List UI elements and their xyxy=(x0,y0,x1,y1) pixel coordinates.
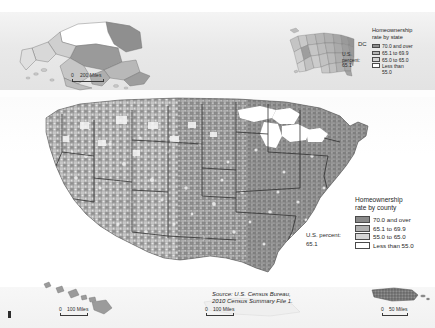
county-legend-row: 65.1 to 69.9 xyxy=(355,225,435,232)
county-us-percent-value: 65.1 xyxy=(306,241,318,248)
county-legend: Homeownership rate by county 70.0 and ov… xyxy=(355,196,435,250)
state-legend-row: 70.0 and over xyxy=(372,43,434,49)
state-legend-label: 65.0 to 65.0 xyxy=(382,57,408,63)
state-legend-label: 65.1 to 69.9 xyxy=(382,50,408,56)
state-legend-swatch xyxy=(372,57,380,61)
scale-bar-puerto-rico: 0 100 Miles xyxy=(206,313,234,316)
scale-label-zero-island: 0 xyxy=(381,306,384,312)
state-legend-row: Less than 55.0 xyxy=(372,63,434,75)
county-legend-row: 55.0 to 65.0 xyxy=(355,233,435,240)
county-legend-swatch xyxy=(355,216,370,223)
scale-bar-alaska: 0 200 Miles xyxy=(72,79,104,82)
island-area-inset-map xyxy=(370,286,432,308)
county-us-percent-label: U.S. percent: xyxy=(306,232,341,239)
county-legend-label: 70.0 and over xyxy=(373,216,411,223)
county-legend-label: 55.0 to 65.0 xyxy=(373,233,406,240)
scale-label-value-hawaii: 100 Miles xyxy=(67,306,88,312)
state-legend-swatch xyxy=(372,63,380,67)
scale-label-value-alaska: 200 Miles xyxy=(80,72,101,78)
scale-label-value-island: 50 Miles xyxy=(389,306,408,312)
county-legend-title: Homeownership rate by county xyxy=(355,196,435,212)
county-legend-row: Less than 55.0 xyxy=(355,242,435,249)
county-legend-label: 65.1 to 69.9 xyxy=(373,225,406,232)
page-marker xyxy=(8,311,11,318)
source-note: Source: U.S. Census Bureau, 2010 Census … xyxy=(212,291,293,304)
scale-label-zero-puerto-rico: 0 xyxy=(205,306,208,312)
state-legend-title: Homeownership rate by state xyxy=(372,27,434,41)
scale-bar-hawaii: 0 100 Miles xyxy=(60,313,88,316)
state-legend-row: 65.1 to 69.9 xyxy=(372,50,434,56)
state-legend-label: Less than 55.0 xyxy=(382,63,404,75)
scale-label-value-puerto-rico: 100 Miles xyxy=(213,306,234,312)
scale-label-zero-alaska: 0 xyxy=(71,72,74,78)
census-map-figure: 0 200 Miles xyxy=(0,0,435,328)
state-legend-label: 70.0 and over xyxy=(382,43,413,49)
state-legend-swatch xyxy=(372,51,380,55)
state-legend-row: 65.0 to 65.0 xyxy=(372,57,434,63)
scale-bar-island: 0 50 Miles xyxy=(382,313,408,316)
state-inset-us-percent-label: U.S. percent: 65.1 xyxy=(342,52,360,69)
county-legend-swatch xyxy=(355,233,370,240)
state-legend: Homeownership rate by state 70.0 and ove… xyxy=(372,27,434,76)
scale-label-zero-hawaii: 0 xyxy=(59,306,62,312)
main-county-map xyxy=(28,92,388,292)
background-band-top xyxy=(0,0,435,12)
state-legend-swatch xyxy=(372,44,380,48)
county-legend-label: Less than 55.0 xyxy=(373,242,414,249)
county-legend-swatch xyxy=(355,242,370,249)
county-legend-row: 70.0 and over xyxy=(355,216,435,223)
county-legend-swatch xyxy=(355,225,370,232)
state-inset-dc-label: DC xyxy=(358,41,367,48)
